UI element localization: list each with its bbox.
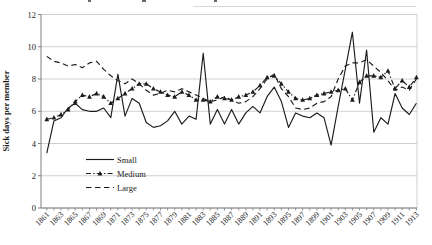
legend-label-large: Large [117, 183, 137, 193]
svg-text:1891: 1891 [247, 210, 265, 228]
svg-text:1871: 1871 [105, 210, 123, 228]
y-tick-labels: 024681012 [28, 10, 37, 214]
svg-text:1887: 1887 [218, 210, 236, 228]
svg-text:10: 10 [28, 42, 37, 52]
legend-item-small: Small [86, 155, 137, 165]
svg-text:1879: 1879 [161, 210, 179, 228]
svg-text:1895: 1895 [275, 210, 293, 228]
series-small-line [47, 32, 417, 153]
svg-text:1863: 1863 [48, 210, 66, 228]
svg-text:Sick days per member: Sick days per member [1, 70, 11, 151]
svg-text:1901: 1901 [318, 210, 336, 228]
svg-text:0: 0 [32, 203, 36, 213]
svg-text:1885: 1885 [204, 210, 222, 228]
svg-text:2: 2 [32, 171, 36, 181]
svg-text:8: 8 [32, 74, 36, 84]
legend-label-small: Small [117, 155, 137, 165]
svg-text:1869: 1869 [90, 210, 108, 228]
svg-text:12: 12 [28, 10, 37, 20]
svg-text:1903: 1903 [332, 210, 350, 228]
legend: SmallMediumLarge [86, 155, 146, 193]
chart-canvas: 0246810121861186318651867186918711873187… [0, 0, 432, 245]
axes [38, 15, 417, 211]
y-axis-title: Sick days per member [1, 70, 11, 151]
x-tick-labels: 1861186318651867186918711873187518771879… [34, 210, 421, 228]
svg-text:1899: 1899 [304, 210, 322, 228]
svg-text:1911: 1911 [389, 210, 406, 227]
legend-label-medium: Medium [117, 169, 146, 179]
svg-text:4: 4 [32, 139, 37, 149]
svg-text:1867: 1867 [76, 210, 94, 228]
legend-item-medium: Medium [86, 169, 146, 179]
legend-item-large: Large [86, 183, 137, 193]
sick-days-per-member-line-chart: 0246810121861186318651867186918711873187… [0, 0, 432, 245]
svg-text:1883: 1883 [190, 210, 208, 228]
svg-text:1877: 1877 [147, 210, 165, 228]
svg-text:1897: 1897 [289, 210, 307, 228]
svg-text:1865: 1865 [62, 210, 80, 228]
svg-text:1913: 1913 [403, 210, 421, 228]
svg-text:1875: 1875 [133, 210, 151, 228]
svg-text:1905: 1905 [346, 210, 364, 228]
svg-text:1889: 1889 [233, 210, 251, 228]
svg-text:1881: 1881 [176, 210, 194, 228]
svg-text:1873: 1873 [119, 210, 137, 228]
svg-text:1909: 1909 [375, 210, 393, 228]
svg-text:1893: 1893 [261, 210, 279, 228]
svg-text:6: 6 [32, 106, 36, 116]
svg-text:1907: 1907 [360, 210, 378, 228]
svg-text:1861: 1861 [34, 210, 52, 228]
